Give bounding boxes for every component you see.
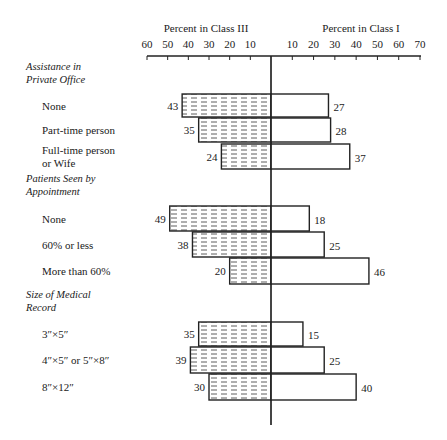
tick-label: 30 bbox=[329, 38, 341, 50]
class-i-bar bbox=[271, 118, 331, 142]
class-iii-bar bbox=[192, 232, 271, 257]
category-label: More than 60% bbox=[42, 265, 110, 277]
tick-label: 10 bbox=[245, 38, 257, 50]
class-iii-value: 20 bbox=[215, 265, 227, 277]
class-iii-value: 39 bbox=[175, 354, 187, 366]
class-iii-bar bbox=[230, 258, 271, 284]
category-label: None bbox=[42, 213, 66, 225]
class-iii-bar bbox=[209, 374, 271, 400]
class-iii-value: 30 bbox=[194, 381, 206, 393]
group-title: Assistance in bbox=[25, 61, 81, 72]
category-label: 60% or less bbox=[42, 239, 93, 251]
class-i-bar bbox=[271, 347, 324, 373]
class-iii-bar bbox=[199, 322, 271, 346]
bars: 432735282437491838252046351539253040 bbox=[155, 56, 386, 425]
tick-label: 30 bbox=[204, 38, 216, 50]
group-title: Patients Seen by bbox=[25, 173, 96, 184]
class-i-bar bbox=[271, 144, 350, 169]
category-label: 3″×5″ bbox=[42, 328, 68, 340]
class-i-value: 18 bbox=[314, 214, 326, 226]
class-i-value: 25 bbox=[329, 355, 341, 367]
class-iii-value: 38 bbox=[177, 239, 189, 251]
tick-label: 50 bbox=[162, 38, 174, 50]
group-title: Record bbox=[25, 302, 57, 313]
group-title: Appointment bbox=[25, 186, 81, 197]
category-labels: Assistance inPrivate OfficeNonePart-time… bbox=[25, 61, 116, 393]
category-label: Part-time person bbox=[42, 124, 116, 136]
class-i-bar bbox=[271, 322, 303, 346]
category-label: or Wife bbox=[42, 157, 75, 169]
tick-label: 60 bbox=[142, 38, 154, 50]
diverging-bar-chart: Percent in Class IIIPercent in Class I60… bbox=[0, 0, 447, 440]
tick-label: 20 bbox=[224, 38, 236, 50]
class-iii-bar bbox=[182, 94, 271, 117]
class-iii-value: 49 bbox=[155, 213, 167, 225]
class-i-bar bbox=[271, 374, 356, 400]
group-title: Size of Medical bbox=[26, 289, 91, 300]
tick-label: 60 bbox=[393, 38, 405, 50]
tick-label: 10 bbox=[287, 38, 299, 50]
tick-label: 20 bbox=[308, 38, 320, 50]
class-iii-value: 35 bbox=[184, 328, 196, 340]
left-axis-title: Percent in Class III bbox=[164, 22, 249, 34]
class-iii-bar bbox=[199, 118, 271, 142]
class-i-value: 25 bbox=[329, 240, 341, 252]
class-i-value: 15 bbox=[308, 329, 320, 341]
category-label: Full-time person bbox=[42, 144, 116, 156]
class-iii-value: 24 bbox=[206, 151, 218, 163]
class-i-value: 40 bbox=[361, 382, 373, 394]
group-title: Private Office bbox=[25, 74, 86, 85]
class-i-value: 37 bbox=[355, 152, 367, 164]
class-i-bar bbox=[271, 232, 324, 257]
tick-label: 40 bbox=[351, 38, 363, 50]
class-i-value: 27 bbox=[333, 101, 345, 113]
right-axis-title: Percent in Class I bbox=[322, 22, 400, 34]
class-iii-bar bbox=[190, 347, 271, 373]
class-iii-bar bbox=[221, 144, 271, 169]
class-iii-value: 43 bbox=[167, 100, 179, 112]
tick-label: 50 bbox=[372, 38, 384, 50]
class-i-value: 46 bbox=[374, 266, 386, 278]
category-label: None bbox=[42, 100, 66, 112]
class-iii-value: 35 bbox=[184, 124, 196, 136]
class-i-bar bbox=[271, 94, 328, 117]
tick-label: 40 bbox=[183, 38, 195, 50]
class-iii-bar bbox=[170, 206, 271, 231]
tick-label: 70 bbox=[415, 38, 427, 50]
class-i-value: 28 bbox=[336, 125, 348, 137]
class-i-bar bbox=[271, 258, 369, 284]
category-label: 4″×5″ or 5″×8″ bbox=[42, 354, 109, 366]
category-label: 8″×12″ bbox=[42, 381, 74, 393]
class-i-bar bbox=[271, 206, 309, 231]
